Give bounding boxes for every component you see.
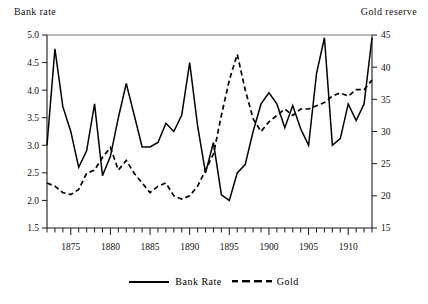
y-tick-label-right: 25 xyxy=(381,159,391,169)
y-tick-label-left: 3.5 xyxy=(27,113,39,123)
y-axis-right-ticks: 15202530354045 xyxy=(372,30,391,233)
series-lines xyxy=(47,38,372,201)
x-tick-label: 1885 xyxy=(141,242,160,252)
y-tick-label-left: 2.5 xyxy=(27,168,39,178)
y-tick-label-left: 4.5 xyxy=(27,58,39,68)
legend-entry-gold: Gold xyxy=(222,276,299,287)
y-tick-label-right: 40 xyxy=(381,63,391,73)
x-axis-ticks: 18751880188518901895190019051910 xyxy=(47,228,372,252)
x-tick-label: 1880 xyxy=(101,242,120,252)
y-tick-label-left: 4.0 xyxy=(27,86,39,96)
x-tick-label: 1905 xyxy=(299,242,318,252)
y-axis-left-ticks: 1.52.02.53.03.54.04.55.0 xyxy=(27,30,47,233)
y-tick-label-left: 3.0 xyxy=(27,141,39,151)
x-tick-label: 1890 xyxy=(180,242,199,252)
x-tick-label: 1895 xyxy=(220,242,239,252)
legend-label-gold: Gold xyxy=(277,276,299,287)
plot-area: 18751880188518901895190019051910 1.52.02… xyxy=(0,0,428,304)
y-tick-label-right: 15 xyxy=(381,223,391,233)
chart-figure: Bank rate Gold reserve 18751880188518901… xyxy=(0,0,428,304)
legend-entry-bank-rate: Bank Rate xyxy=(129,276,221,287)
y-tick-label-right: 45 xyxy=(381,30,391,40)
y-tick-label-right: 20 xyxy=(381,191,391,201)
axis-frame xyxy=(47,35,372,228)
legend-swatch-solid xyxy=(129,281,169,283)
y-tick-label-left: 5.0 xyxy=(27,30,39,40)
x-tick-label: 1910 xyxy=(339,242,358,252)
x-tick-label: 1875 xyxy=(61,242,80,252)
y-tick-label-left: 2.0 xyxy=(27,196,39,206)
series-line-gold xyxy=(47,54,372,199)
y-tick-label-left: 1.5 xyxy=(27,223,39,233)
legend: Bank Rate Gold xyxy=(0,276,428,287)
y-tick-label-right: 30 xyxy=(381,127,391,137)
y-tick-label-right: 35 xyxy=(381,95,391,105)
series-line-bank-rate xyxy=(47,38,372,201)
legend-swatch-dashed xyxy=(232,280,272,282)
x-tick-label: 1900 xyxy=(259,242,278,252)
legend-label-bank-rate: Bank Rate xyxy=(175,276,221,287)
